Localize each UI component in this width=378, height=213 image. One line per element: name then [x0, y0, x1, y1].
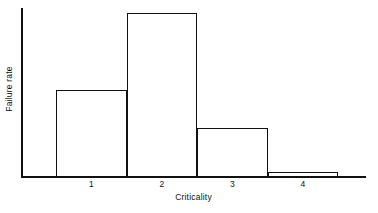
- x-tick-label: 4: [300, 179, 305, 189]
- histogram-bar: [197, 128, 268, 177]
- histogram-bar: [268, 172, 339, 177]
- failure-rate-histogram-figure: Failure rate 1 2 3 4 Criticality: [0, 0, 378, 213]
- histogram-bar: [127, 13, 198, 177]
- x-tick-label: 1: [89, 179, 94, 189]
- y-axis-label: Failure rate: [0, 0, 18, 177]
- x-axis-tick-labels: 1 2 3 4: [21, 179, 366, 193]
- x-axis-label: Criticality: [21, 192, 366, 202]
- histogram-bar: [56, 90, 127, 177]
- x-tick-label: 3: [230, 179, 235, 189]
- x-tick-label: 2: [159, 179, 164, 189]
- plot-area: [21, 8, 366, 177]
- y-axis-label-text: Failure rate: [4, 66, 14, 111]
